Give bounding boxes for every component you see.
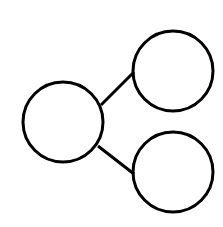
node-root xyxy=(23,82,103,162)
tree-diagram xyxy=(0,0,223,227)
nodes-group xyxy=(23,31,213,212)
edge-root-child-bottom xyxy=(98,146,134,174)
node-child-top xyxy=(133,31,213,111)
node-child-bottom xyxy=(133,132,213,212)
edge-root-child-top xyxy=(101,72,134,105)
